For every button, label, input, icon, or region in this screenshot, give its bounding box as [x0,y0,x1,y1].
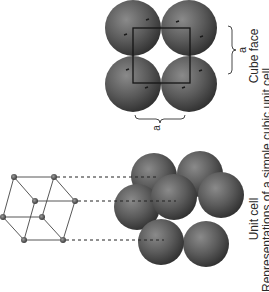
atom-sphere [183,221,229,267]
simple-cubic-diagram: a a Cube face Unit cell Repr [0,0,269,292]
dimension-label-a: a [151,125,162,131]
atom-sphere [138,219,184,265]
lattice-cube [3,177,75,240]
figure-caption: Representations of a simple cubic unit c… [260,68,269,292]
unit-cell-label: Unit cell [247,198,261,241]
unit-cell-panel: Unit cell [114,151,261,267]
atom-sphere [151,174,197,220]
cube-face-label: Cube face [247,28,261,83]
brace-vertical [228,26,236,74]
cube-face-panel: a a Cube face [105,0,261,131]
atom-sphere [161,56,217,112]
brace-horizontal [135,115,185,123]
atom-sphere [198,172,244,218]
